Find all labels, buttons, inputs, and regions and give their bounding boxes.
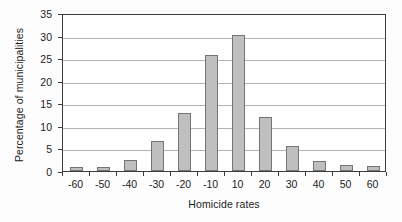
x-tick-mark-2 bbox=[116, 172, 117, 176]
bar--40 bbox=[124, 160, 138, 171]
x-tick-label-30: 30 bbox=[286, 178, 298, 190]
y-axis-tick-labels: 05101520253035 bbox=[0, 0, 52, 222]
x-tick-mark-10 bbox=[332, 172, 333, 176]
y-tick-label-0: 0 bbox=[0, 166, 52, 178]
x-tick-label-60: 60 bbox=[367, 178, 379, 190]
x-tick-mark-0 bbox=[62, 172, 63, 176]
x-tick-label--40: -40 bbox=[122, 178, 137, 190]
x-tick-label--20: -20 bbox=[176, 178, 191, 190]
y-tick-mark-30 bbox=[58, 37, 62, 38]
bar-20 bbox=[259, 117, 273, 171]
x-tick-mark-1 bbox=[89, 172, 90, 176]
x-tick-label-10: 10 bbox=[232, 178, 244, 190]
x-tick-mark-3 bbox=[143, 172, 144, 176]
x-tick-label--30: -30 bbox=[149, 178, 164, 190]
y-tick-label-10: 10 bbox=[0, 121, 52, 133]
plot-area bbox=[62, 14, 386, 172]
x-tick-label--10: -10 bbox=[203, 178, 218, 190]
y-tick-mark-20 bbox=[58, 82, 62, 83]
x-tick-mark-5 bbox=[197, 172, 198, 176]
y-tick-label-5: 5 bbox=[0, 143, 52, 155]
bar-series bbox=[63, 15, 385, 171]
y-tick-label-25: 25 bbox=[0, 53, 52, 65]
bar--20 bbox=[178, 113, 192, 171]
bar-40 bbox=[313, 161, 327, 171]
x-tick-mark-4 bbox=[170, 172, 171, 176]
x-axis-tick-labels: -60-50-40-30-20-10102030405060 bbox=[62, 178, 386, 194]
x-tick-label--60: -60 bbox=[68, 178, 83, 190]
x-tick-label-50: 50 bbox=[340, 178, 352, 190]
bar-10 bbox=[232, 35, 246, 171]
bar-30 bbox=[286, 146, 300, 171]
bar--50 bbox=[97, 167, 111, 172]
x-tick-label--50: -50 bbox=[95, 178, 110, 190]
y-tick-mark-15 bbox=[58, 104, 62, 105]
x-tick-mark-7 bbox=[251, 172, 252, 176]
x-tick-mark-6 bbox=[224, 172, 225, 176]
y-tick-label-30: 30 bbox=[0, 31, 52, 43]
y-tick-mark-0 bbox=[58, 172, 62, 173]
x-axis-title: Homicide rates bbox=[62, 198, 386, 210]
bar--60 bbox=[70, 167, 84, 171]
x-tick-label-20: 20 bbox=[259, 178, 271, 190]
y-tick-label-35: 35 bbox=[0, 8, 52, 20]
bar--30 bbox=[151, 141, 165, 171]
histogram-figure: Percentage of municipalities 05101520253… bbox=[0, 0, 402, 222]
bar--10 bbox=[205, 55, 219, 171]
x-tick-mark-11 bbox=[359, 172, 360, 176]
y-tick-label-15: 15 bbox=[0, 98, 52, 110]
bar-50 bbox=[340, 165, 354, 171]
y-tick-label-20: 20 bbox=[0, 76, 52, 88]
x-tick-mark-9 bbox=[305, 172, 306, 176]
y-tick-mark-35 bbox=[58, 14, 62, 15]
x-tick-mark-12 bbox=[386, 172, 387, 176]
y-tick-mark-25 bbox=[58, 59, 62, 60]
x-tick-mark-8 bbox=[278, 172, 279, 176]
y-tick-mark-5 bbox=[58, 149, 62, 150]
x-tick-label-40: 40 bbox=[313, 178, 325, 190]
bar-60 bbox=[367, 166, 381, 171]
y-tick-mark-10 bbox=[58, 127, 62, 128]
